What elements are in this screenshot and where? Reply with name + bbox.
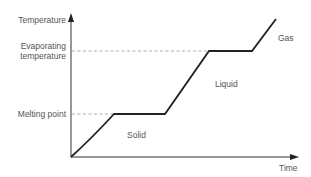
liquid-phase-label: Liquid <box>215 79 238 89</box>
x-axis-label: Time <box>279 163 298 173</box>
evaporating-label-line1: Evaporating <box>20 41 66 51</box>
gas-phase-label: Gas <box>278 33 294 43</box>
heating-curve-line <box>71 19 276 157</box>
evaporating-temperature-label: Evaporating temperature <box>20 41 66 61</box>
y-axis-label: Temperature <box>18 15 66 25</box>
heating-curve-diagram <box>0 0 311 177</box>
evaporating-label-line2: temperature <box>20 51 66 61</box>
y-axis-arrow-icon <box>68 13 74 22</box>
solid-phase-label: Solid <box>127 130 146 140</box>
melting-point-label: Melting point <box>18 109 66 119</box>
x-axis-arrow-icon <box>290 154 299 160</box>
